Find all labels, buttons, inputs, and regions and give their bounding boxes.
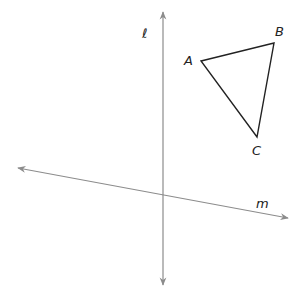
vertex-a-label: A — [183, 53, 193, 68]
triangle-abc — [201, 43, 274, 137]
line-l-label: ℓ — [141, 26, 147, 41]
vertex-c-label: C — [252, 143, 262, 158]
diagram-canvas: ℓ m A B C — [0, 0, 302, 295]
diagram-svg: ℓ m A B C — [0, 0, 302, 295]
line-m — [18, 168, 288, 218]
vertex-b-label: B — [275, 24, 284, 39]
line-m-label: m — [256, 196, 269, 211]
